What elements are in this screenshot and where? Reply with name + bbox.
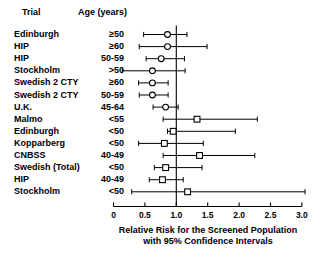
x-axis-tick-label: 0.5 <box>139 210 151 220</box>
forest-plot-figure: Trial Age (years) EdinburghHIPHIPStockho… <box>0 0 324 260</box>
x-axis-tick-label: 1.0 <box>170 210 182 220</box>
forest-row <box>163 153 255 159</box>
forest-row <box>122 68 185 74</box>
point-marker-square <box>185 189 191 195</box>
point-marker-square <box>161 141 167 147</box>
forest-row <box>139 80 169 86</box>
forest-row <box>139 44 207 50</box>
forest-row <box>149 177 183 183</box>
point-marker-circle <box>165 32 171 38</box>
point-marker-square <box>194 116 200 122</box>
forest-row <box>154 165 202 171</box>
point-marker-circle <box>150 80 156 86</box>
x-axis-title-line2: with 95% Confidence Intervals <box>113 236 303 247</box>
x-axis-tick-label: 3.0 <box>296 210 308 220</box>
point-marker-circle <box>150 92 156 98</box>
x-axis-tick-label: 2.0 <box>233 210 245 220</box>
point-marker-square <box>163 165 169 171</box>
point-marker-circle <box>163 104 169 110</box>
point-marker-circle <box>158 56 164 62</box>
point-marker-circle <box>165 44 171 50</box>
plot-area: 00.51.01.52.02.53.0 <box>0 0 324 260</box>
forest-row <box>139 141 204 147</box>
forest-row <box>153 104 178 110</box>
forest-row <box>168 128 236 134</box>
point-marker-square <box>170 128 176 134</box>
x-axis-title-line1: Relative Risk for the Screened Populatio… <box>113 225 303 236</box>
x-axis-tick-label: 2.5 <box>265 210 277 220</box>
x-axis-tick-label: 1.5 <box>202 210 214 220</box>
point-marker-square <box>197 153 203 159</box>
x-axis-tick-label: 0 <box>111 210 116 220</box>
forest-row <box>132 189 305 195</box>
forest-row <box>163 116 257 122</box>
forest-row <box>144 32 187 38</box>
point-marker-circle <box>150 68 156 74</box>
forest-row <box>146 56 184 62</box>
forest-row <box>139 92 168 98</box>
point-marker-square <box>160 177 166 183</box>
